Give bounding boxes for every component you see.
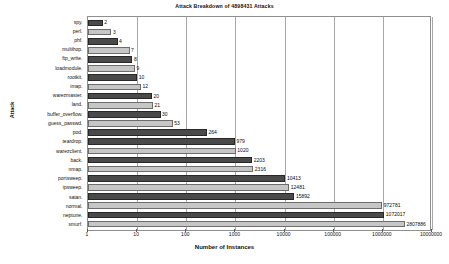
y-axis-label: normal. <box>0 202 85 210</box>
bar-value-label: 3 <box>113 30 116 35</box>
bar-row: 20 <box>88 92 430 100</box>
bar-value-label: 9 <box>136 66 139 71</box>
bar-row: 1072017 <box>88 211 430 219</box>
y-axis-label: buffer_overflow. <box>0 110 85 118</box>
bar <box>88 65 135 72</box>
x-axis-tick-labels: 110100100010000100000100000010000000 <box>87 232 431 242</box>
y-axis-label: rootkit. <box>0 73 85 81</box>
bar <box>88 102 153 109</box>
bar-row: 979 <box>88 138 430 146</box>
bar <box>88 111 161 118</box>
bar-value-label: 12481 <box>291 185 305 190</box>
bar-value-label: 21 <box>154 103 160 108</box>
bar <box>88 120 173 127</box>
bar-value-label: 979 <box>236 139 244 144</box>
bar <box>88 129 207 136</box>
bar-value-label: 1020 <box>237 148 248 153</box>
bar-value-label: 10413 <box>287 176 301 181</box>
chart-title: Attack Breakdown of 4898431 Attacks <box>0 3 449 9</box>
bar-row: 30 <box>88 110 430 118</box>
y-axis-label: land. <box>0 101 85 109</box>
bar <box>88 84 141 91</box>
bar-row: 21 <box>88 101 430 109</box>
bar <box>88 38 118 45</box>
y-axis-label: warezclient. <box>0 147 85 155</box>
y-axis-label: spy. <box>0 18 85 26</box>
plot-area: 2347891012202130532649791020220323161041… <box>87 16 431 231</box>
bar-row: 10413 <box>88 174 430 182</box>
x-axis-tick-label: 1 <box>86 232 89 237</box>
bar <box>88 148 236 155</box>
bar <box>88 193 294 200</box>
bar-value-label: 20 <box>153 94 159 99</box>
y-axis-label: pod. <box>0 128 85 136</box>
bar <box>88 47 130 54</box>
bar <box>88 20 103 27</box>
x-axis-tick-label: 10000000 <box>420 232 442 237</box>
bar-series: 2347891012202130532649791020220323161041… <box>88 17 430 230</box>
x-axis-tick-label: 10000 <box>277 232 291 237</box>
y-axis-label: phf. <box>0 36 85 44</box>
bar-value-label: 10 <box>139 75 145 80</box>
bar-value-label: 4 <box>119 39 122 44</box>
bar <box>88 221 405 228</box>
y-axis-label: smurf. <box>0 221 85 229</box>
bar-value-label: 2807886 <box>406 222 425 227</box>
y-axis-label: satan. <box>0 193 85 201</box>
y-axis-label: neptune. <box>0 211 85 219</box>
x-axis-tick-label: 10 <box>133 232 139 237</box>
bar-value-label: 7 <box>131 48 134 53</box>
bar-row: 2316 <box>88 165 430 173</box>
y-axis-label: perl. <box>0 27 85 35</box>
bar-value-label: 12 <box>143 84 149 89</box>
bar-value-label: 2 <box>104 20 107 25</box>
bar-value-label: 8 <box>134 57 137 62</box>
bar-value-label: 972781 <box>384 203 401 208</box>
bar-value-label: 15892 <box>296 194 310 199</box>
bar-row: 15892 <box>88 192 430 200</box>
bar-row: 264 <box>88 128 430 136</box>
bar-row: 2203 <box>88 156 430 164</box>
y-axis-label: teardrop. <box>0 138 85 146</box>
bar <box>88 29 111 36</box>
bar-row: 3 <box>88 28 430 36</box>
bar-row: 972781 <box>88 202 430 210</box>
bar-value-label: 30 <box>162 112 168 117</box>
y-axis-label: loadmodule. <box>0 64 85 72</box>
bar-row: 12481 <box>88 183 430 191</box>
bar <box>88 157 252 164</box>
bar-value-label: 264 <box>209 130 217 135</box>
x-axis-tick-label: 100000 <box>324 232 341 237</box>
bar-value-label: 53 <box>174 121 180 126</box>
bar <box>88 166 253 173</box>
y-axis-label: nmap. <box>0 165 85 173</box>
y-axis-tick-labels: spy.perl.phf.multihop.ftp_write.loadmodu… <box>0 16 85 231</box>
bar-row: 7 <box>88 46 430 54</box>
bar-row: 4 <box>88 37 430 45</box>
bar-row: 8 <box>88 55 430 63</box>
bar <box>88 175 285 182</box>
bar <box>88 74 137 81</box>
gridline <box>432 17 433 230</box>
bar-value-label: 1072017 <box>386 212 405 217</box>
bar <box>88 56 132 63</box>
bar-row: 53 <box>88 119 430 127</box>
y-axis-label: ftp_write. <box>0 55 85 63</box>
bar-row: 2807886 <box>88 220 430 228</box>
x-axis-tick-label: 1000000 <box>372 232 391 237</box>
bar-value-label: 2316 <box>255 167 266 172</box>
y-axis-label: warezmaster. <box>0 92 85 100</box>
y-axis-label: multihop. <box>0 45 85 53</box>
bar <box>88 202 382 209</box>
x-axis-title: Number of Instances <box>0 244 449 250</box>
bar-row: 2 <box>88 19 430 27</box>
bar-value-label: 2203 <box>254 158 265 163</box>
bar <box>88 138 235 145</box>
y-axis-label: ipsweep. <box>0 184 85 192</box>
bar-row: 9 <box>88 64 430 72</box>
y-axis-label: back. <box>0 156 85 164</box>
bar <box>88 93 152 100</box>
y-axis-label: guess_passwd. <box>0 119 85 127</box>
x-axis-tick-label: 1000 <box>229 232 240 237</box>
bar-row: 10 <box>88 74 430 82</box>
